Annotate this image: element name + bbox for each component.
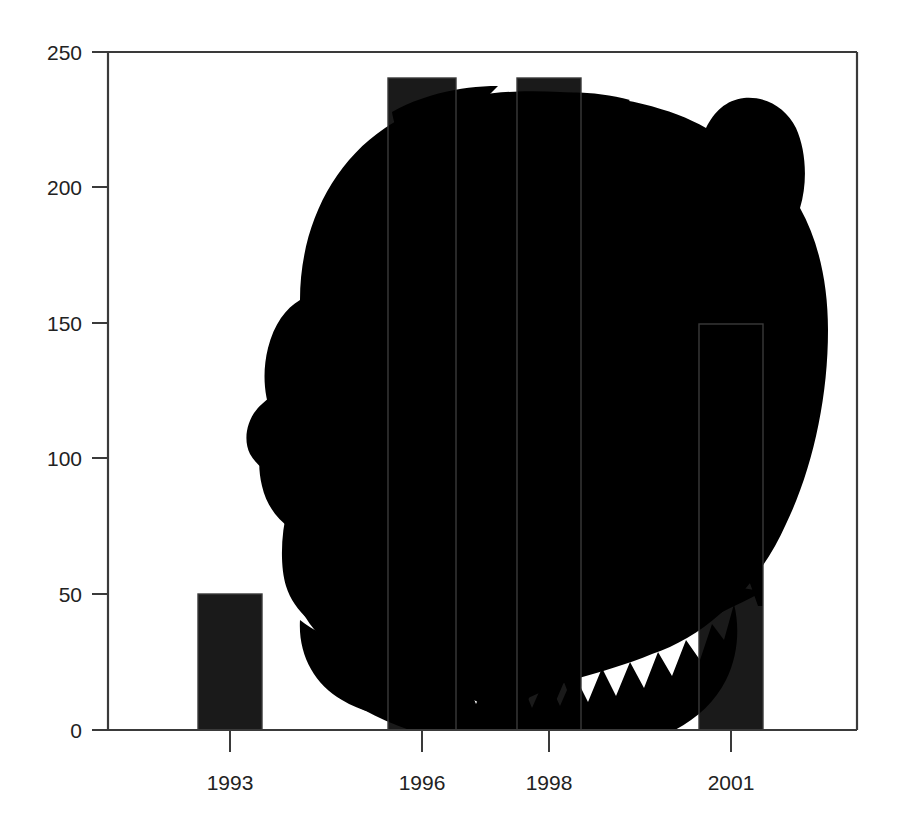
x-tick-label-1993: 1993 (207, 771, 254, 794)
bar-1993[interactable] (198, 594, 262, 730)
y-tick-label-0: 0 (70, 719, 82, 742)
y-tick-label-100: 100 (47, 447, 82, 470)
y-tick-label-250: 250 (47, 41, 82, 64)
y-tick-label-150: 150 (47, 312, 82, 335)
y-tick-label-50: 50 (59, 583, 82, 606)
chart-canvas: /* light rendering (outside bars) */ [da… (0, 0, 900, 827)
x-tick-label-1996: 1996 (399, 771, 446, 794)
y-tick-label-200: 200 (47, 176, 82, 199)
x-tick-label-1998: 1998 (526, 771, 573, 794)
bar-chart-figure: /* light rendering (outside bars) */ [da… (0, 0, 900, 827)
x-tick-label-2001: 2001 (708, 771, 755, 794)
